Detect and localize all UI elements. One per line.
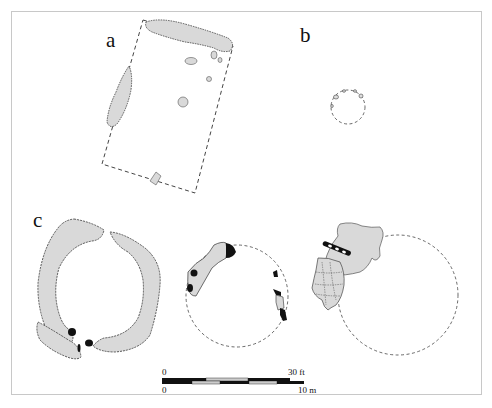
plan-c-dark-deposit xyxy=(68,328,76,336)
plan-b-posthole xyxy=(343,90,346,93)
plan-c-ring-ditch xyxy=(37,219,160,359)
scale-bottom-end-label: 10 m xyxy=(298,386,316,395)
plan-a-north-ditch xyxy=(146,20,233,52)
plan-c2-dark-deposit xyxy=(280,308,287,321)
scale-bar xyxy=(162,378,304,384)
plan-c3-paved-area xyxy=(312,258,344,310)
plan-c2-dark-deposit xyxy=(191,270,198,277)
plan-c2-feature xyxy=(188,242,227,296)
plan-a-pit xyxy=(185,58,197,65)
plan-c-circle-3 xyxy=(312,223,458,355)
plan-a-entrance-stone xyxy=(150,172,161,185)
plan-c-dark-deposit xyxy=(78,344,81,352)
plan-b-posthole xyxy=(359,94,363,98)
plan-a-pit xyxy=(178,97,188,107)
plan-b-posthole xyxy=(354,90,357,93)
plan-b xyxy=(331,90,365,124)
plan-c2-feature xyxy=(276,295,284,310)
plan-c-circle-2 xyxy=(186,242,288,347)
scale-bottom-start-label: 0 xyxy=(162,386,167,395)
scale-top-end-label: 30 ft xyxy=(288,368,305,377)
plan-b-posthole xyxy=(331,105,334,108)
plan-c2-dark-deposit xyxy=(187,284,193,292)
plan-c2-dark-deposit xyxy=(273,289,281,296)
plan-c2-dark-deposit xyxy=(273,270,278,277)
plan-c-dark-deposit xyxy=(85,340,93,347)
plan-c-ring-ditch-west xyxy=(38,219,104,344)
plan-a-pit xyxy=(218,58,222,63)
site-plans xyxy=(0,0,492,408)
plan-a-pit xyxy=(207,77,212,82)
scale-top-start-label: 0 xyxy=(162,368,167,377)
plan-a-pit xyxy=(211,51,217,59)
plan-a-west-ditch xyxy=(107,66,132,127)
plan-b-posthole xyxy=(334,95,339,99)
plan-c-ring-ditch-east xyxy=(93,232,160,352)
plan-a xyxy=(102,20,233,193)
